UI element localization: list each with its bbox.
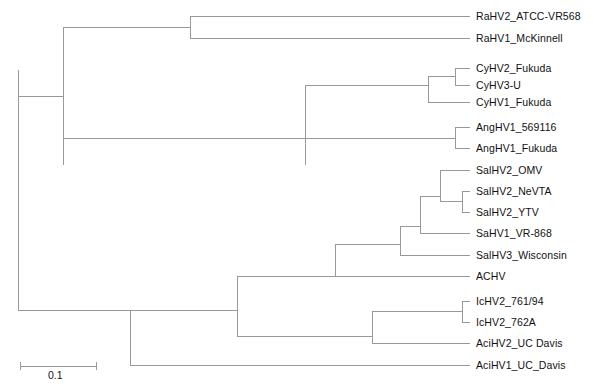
scale-bar-label: 0.1 — [48, 370, 63, 381]
phylogenetic-tree-figure: RaHV2_ATCC-VR568RaHV1_McKinnellCyHV2_Fuk… — [0, 0, 597, 390]
scale-bar-line — [0, 0, 597, 390]
